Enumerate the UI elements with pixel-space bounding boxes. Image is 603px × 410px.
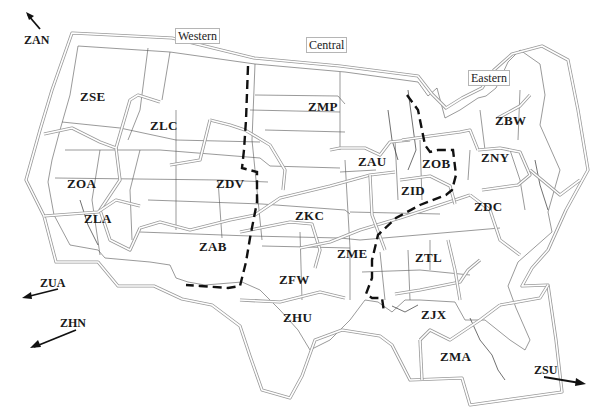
center-label-zdc: ZDC [474,199,502,215]
center-label-zny: ZNY [481,150,509,166]
center-label-ztl: ZTL [415,250,442,266]
center-label-zob: ZOB [422,156,450,172]
center-label-zdv: ZDV [216,176,244,192]
center-label-zoa: ZOA [67,176,96,192]
center-label-zfw: ZFW [279,272,310,288]
center-label-zau: ZAU [358,154,386,170]
center-label-zid: ZID [401,183,425,199]
arrow-west-icon [20,286,60,300]
center-label-zse: ZSE [80,89,105,105]
center-label-zme: ZME [337,246,368,262]
center-label-zhu: ZHU [283,310,312,326]
region-label-western: Western [175,28,220,44]
center-label-zkc: ZKC [295,208,324,224]
arrow-northwest-icon [24,10,44,32]
center-label-zjx: ZJX [421,307,446,323]
center-label-zla: ZLA [84,211,112,227]
region-label-central: Central [306,37,347,53]
center-label-zma: ZMA [440,349,471,365]
arrow-southwest-icon [28,328,78,350]
region-label-eastern: Eastern [468,70,510,86]
offmap-label-zan: ZAN [24,33,49,48]
center-label-zbw: ZBW [495,113,526,129]
us-artcc-map [0,0,603,410]
center-label-zlc: ZLC [150,118,178,134]
center-label-zab: ZAB [199,239,227,255]
center-label-zmp: ZMP [308,99,338,115]
arrow-east-icon [542,374,588,388]
